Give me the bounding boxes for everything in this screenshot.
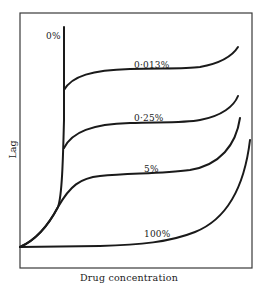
plot-frame	[20, 13, 252, 268]
label-5-percent: 5%	[144, 164, 159, 174]
y-axis-label: Lag	[7, 135, 18, 165]
chart-plot-area	[0, 0, 258, 286]
label-0-013-percent: 0·013%	[134, 60, 170, 70]
label-100-percent: 100%	[144, 229, 171, 239]
label-0-percent: 0%	[46, 31, 61, 41]
lag-vs-drug-concentration-chart: 0% 0·013% 0·25% 5% 100% Lag Drug concent…	[0, 0, 258, 286]
x-axis-label: Drug concentration	[0, 272, 258, 283]
curve-0-percent	[20, 27, 64, 247]
curve-100-percent	[20, 140, 250, 247]
label-0-25-percent: 0·25%	[134, 113, 164, 123]
curve-5-percent	[20, 118, 240, 247]
